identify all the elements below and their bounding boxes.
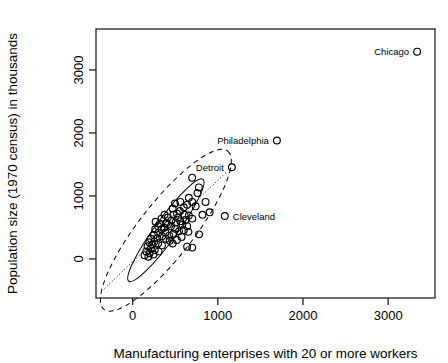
y-tick-label: 0 (71, 255, 86, 262)
data-point[interactable] (199, 211, 206, 218)
x-axis-title: Manufacturing enterprises with 20 or mor… (114, 346, 418, 361)
x-tick-label: 2000 (289, 308, 318, 323)
point-label-detroit: Detroit (196, 162, 224, 173)
data-point[interactable] (221, 213, 228, 220)
data-point[interactable] (274, 137, 281, 144)
scatter-plot: ChicagoPhiladelphiaDetroitCleveland01000… (0, 0, 448, 363)
y-tick-label: 1000 (71, 181, 86, 210)
data-point[interactable] (202, 199, 209, 206)
data-point[interactable] (414, 48, 421, 55)
point-label-chicago: Chicago (374, 46, 409, 57)
x-tick-label: 1000 (203, 308, 232, 323)
point-label-cleveland: Cleveland (233, 211, 275, 222)
data-point[interactable] (189, 174, 196, 181)
data-points (141, 48, 420, 260)
x-tick-label: 3000 (374, 308, 403, 323)
y-tick-label: 3000 (71, 55, 86, 84)
chart-container: ChicagoPhiladelphiaDetroitCleveland01000… (0, 0, 448, 363)
major-axis-line (105, 171, 228, 288)
x-tick-label: 0 (129, 308, 136, 323)
y-axis-title: Population size (1970 census) in thousan… (5, 33, 20, 294)
data-point[interactable] (228, 164, 235, 171)
y-tick-label: 2000 (71, 118, 86, 147)
data-point[interactable] (206, 209, 213, 216)
point-label-philadelphia: Philadelphia (217, 135, 269, 146)
